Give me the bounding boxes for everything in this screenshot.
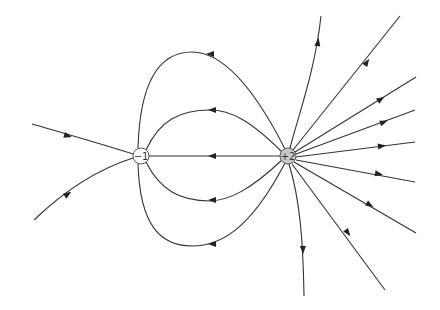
field-line-path (290, 16, 321, 148)
charge-label: −1 (134, 151, 149, 162)
arrow-head-icon (63, 189, 73, 199)
charge-neg: −1 (133, 148, 149, 164)
field-line-path (292, 164, 385, 290)
field-line-middle-line (149, 153, 280, 159)
field-line-path (32, 124, 133, 154)
arrow-head-icon (343, 228, 353, 238)
field-line-path (146, 110, 282, 152)
field-line-outgoing-right-low (296, 160, 415, 182)
field-line-outgoing-upper-right (295, 77, 416, 152)
field-line-incoming-lower (34, 158, 133, 220)
field-line-outgoing-right-high (296, 110, 415, 154)
field-line-path (34, 158, 133, 220)
field-line-path (289, 164, 304, 296)
field-line-path (293, 16, 400, 150)
field-line-path (296, 160, 415, 182)
field-line-path (296, 110, 415, 154)
field-line-path (146, 160, 282, 201)
field-line-path (138, 163, 285, 246)
charge-pos: +2 (280, 148, 296, 164)
field-line-outgoing-lower-right (294, 162, 416, 233)
field-line-path (294, 162, 416, 233)
field-lines-canvas: −1+2 (0, 0, 440, 310)
field-line-upper-loop (146, 107, 282, 152)
field-line-lower-loop (146, 160, 282, 203)
arrow-head-icon (208, 241, 216, 247)
arrow-head-icon (208, 107, 216, 113)
field-diagram: −1+2 (0, 0, 440, 310)
arrow-head-icon (300, 246, 306, 254)
field-line-incoming-upper (32, 124, 133, 154)
charge-label: +2 (281, 151, 296, 162)
arrow-head-icon (378, 143, 387, 150)
field-line-path (296, 142, 415, 157)
field-line-path (295, 77, 416, 152)
arrow-head-icon (208, 197, 216, 203)
field-line-outgoing-up (293, 16, 400, 150)
field-line-outgoing-up-steep (290, 16, 322, 148)
field-line-outgoing-right (296, 142, 415, 157)
field-line-outgoing-down-steep (289, 164, 306, 296)
field-line-outgoing-down (292, 164, 385, 290)
arrow-head-icon (375, 170, 384, 177)
arrow-head-icon (208, 153, 216, 159)
arrow-head-icon (63, 132, 72, 140)
arrow-head-icon (379, 118, 389, 126)
arrow-head-icon (376, 94, 386, 103)
field-line-bottom-loop (138, 163, 285, 247)
